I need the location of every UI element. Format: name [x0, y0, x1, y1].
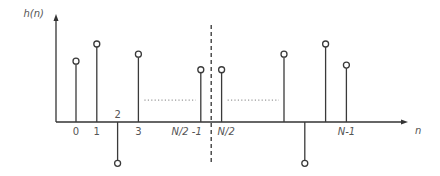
x-tick-label: 0: [73, 126, 79, 137]
x-tick-label: 2: [114, 109, 120, 120]
x-tick-label: N/2 -1: [171, 126, 201, 137]
stem-sample: [281, 51, 287, 122]
stem-head-marker: [198, 67, 204, 73]
stem-sample: 2: [114, 109, 120, 166]
stem-head-marker: [323, 41, 329, 47]
stem-sample: 3: [135, 51, 141, 137]
stem-head-marker: [219, 67, 225, 73]
stem-sample: [323, 41, 329, 122]
x-axis-label: n: [415, 125, 421, 136]
x-axis-arrow-icon: [401, 120, 408, 125]
stem-head-marker: [302, 160, 308, 166]
x-tick-label: 3: [135, 126, 141, 137]
stem-head-marker: [73, 58, 79, 64]
y-axis-label: h(n): [24, 8, 44, 19]
stem-head-marker: [135, 51, 141, 57]
stem-sample: N-1: [338, 62, 355, 137]
y-axis-arrow-icon: [54, 14, 59, 21]
stem-head-marker: [281, 51, 287, 57]
stem-sample: N/2: [218, 67, 235, 137]
x-tick-label: 1: [94, 126, 100, 137]
x-tick-label: N/2: [218, 126, 235, 137]
stem-head-marker: [343, 62, 349, 68]
stem-plot: h(n) n 0123N/2 -1N/2N-1: [0, 0, 440, 176]
stem-sample: N/2 -1: [171, 67, 203, 137]
x-tick-label: N-1: [338, 126, 355, 137]
stem-sample: 0: [73, 58, 79, 137]
stem-head-marker: [115, 160, 121, 166]
stem-sample: [302, 122, 308, 166]
stem-head-marker: [94, 41, 100, 47]
stems: 0123N/2 -1N/2N-1: [73, 41, 355, 166]
annotations: [144, 25, 279, 164]
